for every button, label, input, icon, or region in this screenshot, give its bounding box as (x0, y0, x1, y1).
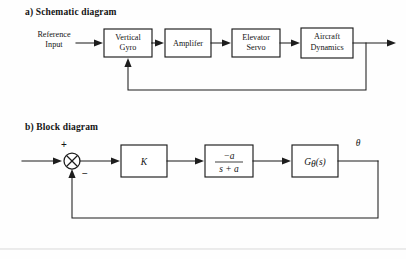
block-gain-k-label: K (140, 157, 148, 167)
reference-input-label-line2: Input (45, 40, 63, 49)
block-transfer-function-denominator: s + a (219, 164, 239, 174)
arrowhead-amplifier-to-servo (222, 39, 231, 46)
block-elevator-servo-label-line2: Servo (246, 43, 265, 52)
output-theta-label: θ (356, 138, 361, 148)
block-aircraft-dynamics-label-line1: Aircraft (314, 32, 341, 41)
arrowhead-tf-to-plant (282, 157, 291, 164)
arrowhead-schematic-feedback (124, 58, 131, 67)
block-elevator-servo-label-line1: Elevator (242, 33, 270, 42)
blockdiagram-section-title: b) Block diagram (25, 122, 98, 133)
block-vertical-gyro-label-line1: Vertical (115, 33, 141, 42)
block-aircraft-dynamics-label-line2: Dynamics (310, 43, 343, 52)
control-system-figure: a) Schematic diagram Reference Input Ver… (0, 0, 406, 259)
arrowhead-gain-to-tf (195, 157, 204, 164)
reference-input-label-line1: Reference (37, 30, 71, 39)
arrowhead-blockdiagram-feedback (68, 169, 75, 178)
arrowhead-servo-to-dynamics (291, 39, 300, 46)
arrowhead-sum-to-gain (111, 157, 120, 164)
schematic-section-title: a) Schematic diagram (25, 7, 117, 18)
block-vertical-gyro-label-line2: Gyro (120, 43, 137, 52)
arrowhead-gyro-to-amplifier (155, 39, 164, 46)
arrowhead-blockdiagram-input (53, 157, 62, 164)
arrowhead-schematic-output (387, 39, 396, 46)
plant-label-arg: (s) (316, 157, 326, 168)
figure-canvas: a) Schematic diagram Reference Input Ver… (0, 0, 406, 259)
summing-junction-minus-sign: − (82, 168, 88, 179)
arrowhead-input-to-gyro (94, 39, 103, 46)
summing-junction-plus-sign: + (61, 139, 67, 150)
block-transfer-function-numerator: −a (223, 151, 234, 161)
block-amplifier-label: Amplifer (173, 39, 203, 48)
